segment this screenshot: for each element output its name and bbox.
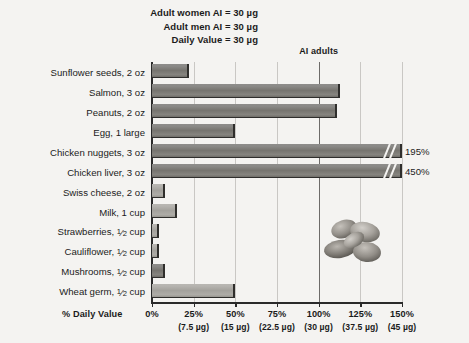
- axis-break-mark: [382, 142, 399, 160]
- ai-adults-annotation: AI adults: [281, 46, 357, 56]
- bar-row-label: Salmon, 3 oz: [89, 87, 145, 98]
- note-adult-women-ai: Adult women AI = 30 µg: [0, 6, 258, 20]
- header-notes: Adult women AI = 30 µg Adult men AI = 30…: [0, 6, 258, 47]
- bar-value-label: 450%: [405, 165, 430, 176]
- x-axis-title: % Daily Value: [62, 309, 123, 319]
- axis-break-mark: [382, 162, 399, 180]
- note-daily-value: Daily Value = 30 µg: [0, 33, 258, 47]
- bar-row-label: Egg, 1 large: [93, 127, 145, 138]
- bar: [152, 284, 235, 298]
- bar-row: Wheat germ, 1⁄2 cup: [152, 282, 402, 302]
- x-tick-0: [152, 302, 153, 307]
- bar: [152, 204, 177, 218]
- bar: [152, 104, 337, 118]
- bar-row-label: Chicken liver, 3 oz: [67, 167, 145, 178]
- bar-row: Peanuts, 2 oz: [152, 102, 402, 122]
- bar: 450%: [152, 164, 402, 178]
- bar: [152, 244, 159, 258]
- x-axis-tick-label: 150%: [374, 309, 430, 319]
- bar-row-label: Chicken nuggets, 3 oz: [50, 147, 145, 158]
- bar-row: Sunflower seeds, 2 oz: [152, 62, 402, 82]
- bar: [152, 124, 235, 138]
- bar-row-label: Strawberries, 1⁄2 cup: [58, 226, 145, 239]
- peanuts-photo: [320, 214, 392, 270]
- nutrient-bar-chart: Adult women AI = 30 µg Adult men AI = 30…: [0, 0, 469, 343]
- bar-row: Chicken liver, 3 oz450%: [152, 162, 402, 182]
- bar: [152, 184, 165, 198]
- bar: [152, 224, 159, 238]
- bar: [152, 64, 189, 78]
- x-tick-75: [277, 302, 278, 307]
- x-tick-50: [235, 302, 236, 307]
- x-tick-150: [402, 302, 403, 307]
- bar-row: Chicken nuggets, 3 oz195%: [152, 142, 402, 162]
- bar-row: Salmon, 3 oz: [152, 82, 402, 102]
- gridline-150: [402, 62, 403, 302]
- note-adult-men-ai: Adult men AI = 30 µg: [0, 20, 258, 34]
- bar-row-label: Wheat germ, 1⁄2 cup: [59, 286, 145, 299]
- bar-row-label: Cauliflower, 1⁄2 cup: [65, 246, 145, 259]
- x-tick-125: [360, 302, 361, 307]
- bar-row-label: Peanuts, 2 oz: [86, 107, 145, 118]
- bar-row-label: Mushrooms, 1⁄2 cup: [61, 266, 145, 279]
- bar-row-label: Sunflower seeds, 2 oz: [51, 67, 145, 78]
- bar: [152, 84, 340, 98]
- bar: [152, 264, 165, 278]
- bar-value-label: 195%: [405, 145, 430, 156]
- x-tick-25: [194, 302, 195, 307]
- bar-row-label: Milk, 1 cup: [99, 207, 145, 218]
- x-axis-tick-sublabel: (45 µg): [374, 322, 430, 332]
- x-tick-100: [319, 302, 320, 307]
- bar-row: Swiss cheese, 2 oz: [152, 182, 402, 202]
- bar: 195%: [152, 144, 402, 158]
- bar-row-label: Swiss cheese, 2 oz: [63, 187, 145, 198]
- bar-row: Egg, 1 large: [152, 122, 402, 142]
